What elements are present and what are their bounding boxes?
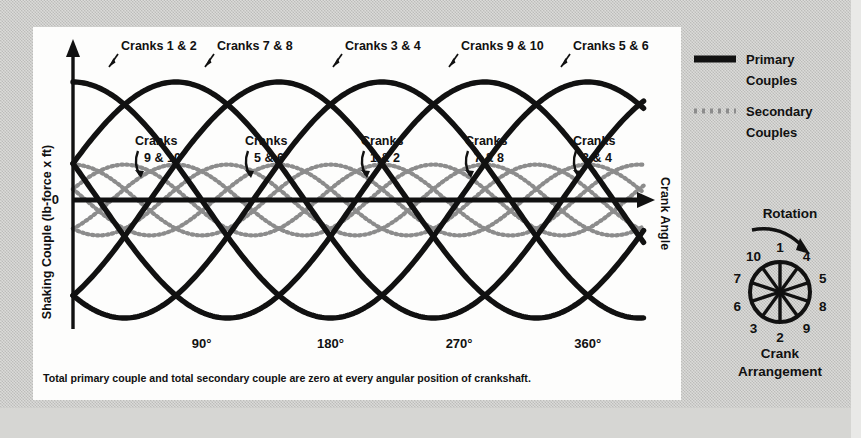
crank-number-label: 2 <box>776 330 784 345</box>
crank-number-label: 5 <box>819 271 827 286</box>
plot-panel: Cranks 1 & 2Cranks 7 & 8Cranks 3 & 4Cran… <box>33 27 681 400</box>
primary-curve-label: Cranks 3 & 4 <box>345 39 421 53</box>
crank-arrangement-title-line1: Crank <box>761 346 800 361</box>
x-axis-tick-labels: 90°180°270°360° <box>192 336 601 351</box>
x-axis-tick-label: 90° <box>192 336 212 351</box>
crank-number-label: 1 <box>776 240 784 255</box>
page-bottom-band <box>0 408 861 438</box>
shaking-couple-chart: Cranks 1 & 2Cranks 7 & 8Cranks 3 & 4Cran… <box>33 27 681 400</box>
rotation-label: Rotation <box>763 206 818 221</box>
primary-curve-label: Cranks 1 & 2 <box>121 39 197 53</box>
crank-number-label: 3 <box>750 321 758 336</box>
y-axis-title: Shaking Couple (lb-force x ft) <box>40 145 54 319</box>
legend: PrimaryCouplesSecondaryCouples <box>690 45 855 150</box>
x-axis-tick-label: 270° <box>446 336 473 351</box>
secondary-curve-label-line1: Cranks <box>135 134 177 148</box>
crank-number-label: 9 <box>803 321 811 336</box>
crank-arrangement-diagram: 14589236710 Rotation Crank Arrangement <box>690 200 861 400</box>
secondary-curve-label-line2: 9 & 10 <box>144 151 181 165</box>
chart-axes <box>66 39 655 329</box>
figure-caption: Total primary couple and total secondary… <box>43 372 531 384</box>
crank-wheel-hub <box>777 289 782 294</box>
y-axis-zero-tick: 0 <box>52 192 59 207</box>
primary-curve-label: Cranks 5 & 6 <box>573 39 649 53</box>
legend-label-line1: Secondary <box>746 104 813 119</box>
crank-number-label: 10 <box>746 249 761 264</box>
secondary-curve-label-line2: 5 & 6 <box>254 151 284 165</box>
legend-label-line2: Couples <box>746 125 797 140</box>
secondary-curve-label-line1: Cranks <box>573 134 615 148</box>
primary-curve-labels: Cranks 1 & 2Cranks 7 & 8Cranks 3 & 4Cran… <box>109 39 649 67</box>
legend-label-line2: Couples <box>746 73 797 88</box>
primary-curve-label: Cranks 7 & 8 <box>217 39 293 53</box>
x-axis-arrow-icon <box>637 192 655 208</box>
crank-number-label: 6 <box>733 299 741 314</box>
y-axis-arrow-icon <box>66 39 80 57</box>
secondary-curve-label-line2: 3 & 4 <box>582 151 612 165</box>
crank-number-label: 7 <box>733 271 741 286</box>
secondary-curve-label-line1: Cranks <box>245 134 287 148</box>
secondary-curve-label-line2: 7 & 8 <box>474 151 504 165</box>
crank-arrangement-title-line2: Arrangement <box>738 364 823 379</box>
primary-curve-label: Cranks 9 & 10 <box>461 39 544 53</box>
x-axis-tick-label: 180° <box>317 336 344 351</box>
x-axis-tick-label: 360° <box>574 336 601 351</box>
x-axis-title: Crank Angle <box>658 177 672 250</box>
secondary-curve-label-line1: Cranks <box>361 134 403 148</box>
legend-label-line1: Primary <box>746 52 795 67</box>
secondary-curve-label-line2: 1 & 2 <box>370 151 400 165</box>
crank-number-label: 8 <box>819 299 827 314</box>
secondary-curve-label-line1: Cranks <box>465 134 507 148</box>
